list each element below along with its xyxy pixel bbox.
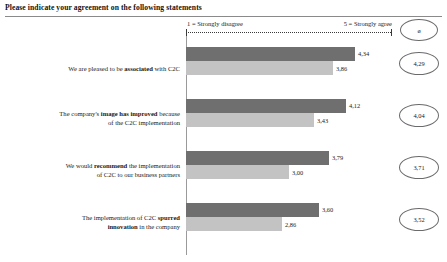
- bar-value-row2-light: 3,43: [317, 117, 328, 124]
- title-divider: [5, 16, 442, 17]
- mean-ellipse-row3: 3,71: [399, 156, 439, 179]
- survey-agreement-chart: Please indicate your agreement on the fo…: [0, 0, 447, 262]
- scale-tick-max: [391, 29, 392, 36]
- scale-min-label: 1 = Strongly disagree: [187, 20, 243, 27]
- bar-row3-light: [186, 165, 289, 179]
- bar-value-row3-dark: 3,79: [332, 154, 343, 161]
- scale-max-label: 5 = Strongly agree: [318, 20, 392, 27]
- mean-ellipse-row4: 3,52: [399, 208, 439, 231]
- bar-row2-dark: [186, 99, 346, 113]
- mean-column-header: ø: [400, 19, 438, 41]
- bar-value-row4-dark: 3,60: [322, 206, 333, 213]
- mean-ellipse-row2: 4,04: [399, 104, 439, 127]
- statement-label-3: We would recommend the implementationof …: [4, 162, 180, 179]
- bar-row2-light: [186, 113, 314, 127]
- bar-row1-light: [186, 61, 333, 75]
- bar-value-row2-dark: 4,12: [349, 102, 360, 109]
- bar-row1-dark: [186, 47, 355, 61]
- bar-value-row4-light: 2,86: [285, 221, 296, 228]
- bar-row4-dark: [186, 203, 319, 217]
- scale-axis-dotted-line: [186, 32, 391, 34]
- mean-ellipse-row1: 4,29: [399, 52, 439, 75]
- statement-label-1: We are pleased to be associated with C2C: [4, 65, 180, 74]
- bar-row4-light: [186, 217, 282, 231]
- bar-value-row3-light: 3,00: [292, 169, 303, 176]
- bar-value-row1-dark: 4,34: [358, 50, 369, 57]
- bar-value-row1-light: 3,86: [336, 65, 347, 72]
- statement-label-4: The implementation of C2C spurredinnovat…: [4, 214, 180, 231]
- statement-label-2: The company's image has improved because…: [4, 110, 180, 127]
- scale-tick-min: [186, 29, 187, 36]
- bar-row3-dark: [186, 151, 329, 165]
- chart-title: Please indicate your agreement on the fo…: [5, 3, 442, 12]
